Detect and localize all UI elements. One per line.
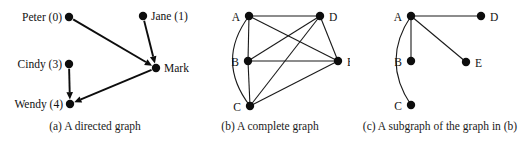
vertex-label-A: A <box>232 11 241 23</box>
vertex-label-B: B <box>394 56 402 68</box>
vertex-E <box>462 58 470 66</box>
arrowhead-cindy-wendy <box>66 92 73 99</box>
directed-graph-canvas: Peter (0)Jane (1)Mark (2)Cindy (3)Wendy … <box>0 0 190 118</box>
vertex-A <box>245 12 253 20</box>
caption-panel-b: (b) A complete graph <box>190 118 350 134</box>
vertex-peter <box>65 13 73 21</box>
panel-complete-graph: ABCDE (b) A complete graph <box>190 0 350 142</box>
edge-A-B <box>248 16 249 61</box>
panel-directed-graph: Peter (0)Jane (1)Mark (2)Cindy (3)Wendy … <box>0 0 190 142</box>
caption-panel-a: (a) A directed graph <box>0 118 190 134</box>
edge-A-E <box>249 16 338 61</box>
arrowhead-jane-mark <box>150 56 156 64</box>
vertex-label-D: D <box>490 11 498 23</box>
vertex-C <box>246 102 254 110</box>
vertex-label-wendy: Wendy (4) <box>14 98 63 111</box>
vertex-B <box>407 57 415 65</box>
edge-peter-mark <box>73 19 146 62</box>
edge-C-E <box>250 61 338 106</box>
vertex-label-A: A <box>394 11 403 23</box>
complete-graph-canvas: ABCDE <box>190 0 350 118</box>
vertex-label-peter: Peter (0) <box>22 11 62 24</box>
edge-mark-wendy <box>81 70 152 100</box>
vertex-cindy <box>65 60 73 68</box>
subgraph-canvas: ABCDE <box>350 0 530 118</box>
edge-jane-mark <box>144 21 153 57</box>
edge-cindy-wendy <box>69 69 70 92</box>
edge-A-E <box>411 16 466 62</box>
node-layer: ABCDE <box>394 11 499 112</box>
edge-B-D <box>248 16 320 61</box>
vertex-label-D: D <box>329 11 337 23</box>
vertex-label-C: C <box>233 101 241 113</box>
edge-B-C <box>248 61 250 106</box>
vertex-label-E: E <box>475 57 482 69</box>
vertex-A <box>407 12 415 20</box>
caption-panel-c: (c) A subgraph of the graph in (b) <box>350 118 530 134</box>
vertex-label-mark: Mark (2) <box>164 62 190 75</box>
vertex-jane <box>139 12 147 20</box>
vertex-D <box>477 12 485 20</box>
node-layer: Peter (0)Jane (1)Mark (2)Cindy (3)Wendy … <box>14 10 190 111</box>
vertex-label-B: B <box>231 56 239 68</box>
edge-layer <box>66 19 156 102</box>
vertex-label-cindy: Cindy (3) <box>18 58 63 71</box>
vertex-mark <box>152 64 160 72</box>
panel-subgraph: ABCDE (c) A subgraph of the graph in (b) <box>350 0 530 142</box>
vertex-E <box>334 57 342 65</box>
vertex-B <box>244 57 252 65</box>
vertex-label-C: C <box>394 100 402 112</box>
vertex-C <box>407 101 415 109</box>
vertex-wendy <box>66 100 74 108</box>
vertex-label-jane: Jane (1) <box>151 10 188 23</box>
figure-graphs-illustration: Peter (0)Jane (1)Mark (2)Cindy (3)Wendy … <box>0 0 530 142</box>
vertex-D <box>316 12 324 20</box>
